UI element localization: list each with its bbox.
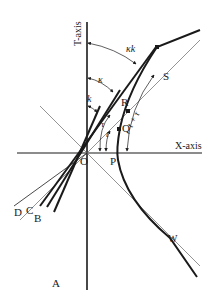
label-a: A [52,277,60,289]
x-axis-label: X-axis [175,140,202,151]
label-c: C [26,204,33,216]
point-s-marker [155,45,159,49]
arc-k [88,106,97,112]
label-r: R [121,96,129,108]
point-q-marker [117,127,121,131]
light-cone-line-past [20,40,200,220]
label-q: Q [122,122,130,134]
label-k: k [87,93,92,104]
point-r-marker [126,109,130,113]
label-w: W [168,233,178,244]
t-axis-label: T-axis [72,21,83,46]
label-origin: O [80,155,88,167]
worldline-kappa [47,90,120,207]
label-kappa-k: κk [126,43,136,54]
worldline-d [14,153,87,206]
spacetime-diagram: T-axis X-axis κk κ k τ t t + τ O P Q R S… [0,0,214,307]
label-b: B [34,212,41,224]
label-kappa: κ [98,74,103,85]
label-d: D [14,206,22,218]
label-p: P [110,155,116,167]
worldline-kappa-k [40,47,156,206]
label-s: S [163,70,169,82]
